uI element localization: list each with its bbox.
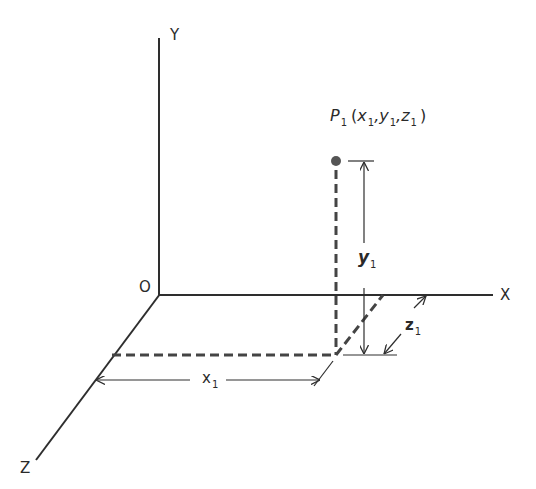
coord-y-subscript: 1 bbox=[390, 117, 396, 128]
y1-dimension-label: y1 bbox=[358, 249, 376, 266]
diagram-canvas bbox=[0, 0, 536, 489]
coord-y: y bbox=[379, 106, 388, 125]
x1-subscript: 1 bbox=[212, 379, 218, 390]
x1-extension-right bbox=[314, 361, 333, 386]
coord-z: z bbox=[401, 106, 409, 125]
paren-close: ) bbox=[420, 106, 426, 125]
y1-letter: y bbox=[358, 247, 369, 267]
z1-letter: z bbox=[405, 316, 414, 334]
z-axis bbox=[36, 294, 160, 460]
z1-arrow-upper bbox=[414, 296, 426, 308]
coord-x-subscript: 1 bbox=[368, 117, 374, 128]
point-p1 bbox=[331, 156, 341, 166]
z-axis-label: Z bbox=[20, 461, 30, 476]
x1-letter: x bbox=[202, 369, 211, 387]
x1-dimension-label: x1 bbox=[202, 371, 218, 386]
y1-subscript: 1 bbox=[370, 259, 376, 270]
point-name-subscript: 1 bbox=[341, 117, 347, 128]
point-name: P bbox=[330, 106, 340, 125]
origin-label: O bbox=[139, 280, 151, 295]
x-axis-label: X bbox=[500, 288, 510, 303]
point-p1-label: P1(x1,y1,z1) bbox=[330, 108, 426, 124]
coord-x: x bbox=[357, 106, 366, 125]
y-axis-label: Y bbox=[170, 28, 179, 43]
coord-z-subscript: 1 bbox=[411, 117, 417, 128]
coordinate-diagram: Y X Z O P1(x1,y1,z1) y1 z1 x1 bbox=[0, 0, 536, 489]
z1-subscript: 1 bbox=[415, 326, 421, 337]
projection-diagonal-dashed bbox=[336, 295, 383, 355]
z1-arrow-lower bbox=[384, 334, 401, 354]
z1-dimension-label: z1 bbox=[405, 318, 421, 333]
